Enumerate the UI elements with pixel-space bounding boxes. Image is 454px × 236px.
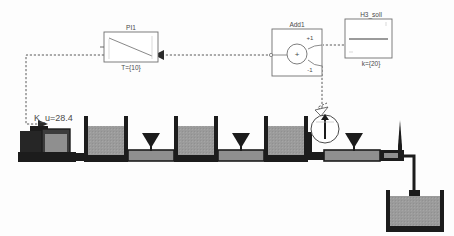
reservoir-tank[interactable] [386, 190, 444, 232]
valve-3-pipe[interactable] [324, 150, 380, 161]
gain-label: K_u=28.4 [34, 113, 73, 123]
reservoir-floor [386, 226, 444, 232]
sensor-base [306, 152, 324, 160]
valve-2-pipe[interactable] [218, 150, 264, 161]
tank-1[interactable] [76, 116, 128, 162]
reservoir-wall-right [440, 190, 444, 232]
block-setpoint[interactable]: H3_soll k={20} [345, 11, 392, 68]
outlet-valve-needle-icon [398, 120, 402, 146]
tank-3-floor [264, 155, 308, 162]
pi-controller-parameter: T={10} [121, 64, 141, 72]
valve-1-pipe[interactable] [128, 150, 174, 161]
reservoir-fluid [390, 196, 440, 226]
outlet-valve[interactable] [380, 120, 420, 198]
valve-2-stem [240, 145, 242, 151]
tank-1-floor [84, 155, 128, 162]
block-diagram-svg: PI1 T={10} Add1 + +1 -1 H3_soll k={20} [0, 0, 454, 236]
setpoint-parameter: k={20} [362, 60, 381, 68]
adder-operator-sign: + [295, 50, 300, 59]
pi-controller-label: PI1 [126, 24, 136, 31]
tank-2-floor [174, 155, 218, 162]
pump-base-rail [18, 152, 76, 162]
tank-2-fluid [178, 126, 214, 155]
tank-3-fluid [268, 126, 304, 155]
valve-3-stem [353, 145, 355, 151]
valve-2[interactable] [218, 133, 264, 161]
setpoint-label: H3_soll [360, 11, 382, 19]
pump-unit[interactable]: K_u=28.4 [18, 113, 76, 162]
outlet-valve-seat [384, 153, 398, 158]
adder-input-plus-label: +1 [307, 35, 315, 41]
adder-output-port [269, 53, 272, 56]
adder-input-minus-label: -1 [307, 67, 313, 73]
reservoir-wall-left [386, 190, 390, 232]
outlet-valve-stem [398, 146, 402, 154]
valve-1[interactable] [128, 133, 174, 161]
tank-3[interactable] [264, 116, 308, 162]
block-pi-controller[interactable]: PI1 T={10} [100, 24, 158, 72]
tank-1-inlet-port [76, 153, 86, 161]
block-adder[interactable]: Add1 + +1 -1 [269, 21, 322, 76]
tank-1-fluid [88, 126, 124, 155]
tank-2[interactable] [174, 116, 218, 162]
valve-1-stem [150, 145, 152, 151]
adder-label: Add1 [289, 21, 305, 28]
diagram-canvas: PI1 T={10} Add1 + +1 -1 H3_soll k={20} [0, 0, 454, 236]
